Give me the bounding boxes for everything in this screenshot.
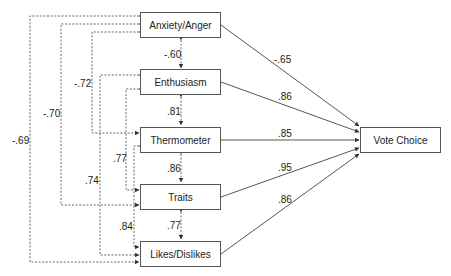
node-traits: Traits <box>140 184 221 210</box>
corr-anxiety-thermometer: -.72 <box>74 79 91 89</box>
node-thermometer: Thermometer <box>140 127 221 153</box>
coef-thermometer-vote: .85 <box>278 129 292 139</box>
corr-traits-likes: .77 <box>167 221 181 231</box>
path-anxiety-vote <box>221 25 359 126</box>
corr-anxiety-enthusiasm: -.60 <box>164 50 181 60</box>
path-enthusiasm-vote <box>221 82 359 132</box>
corr-anxiety-likes: -.69 <box>12 136 29 146</box>
coef-anxiety-vote: -.65 <box>274 55 291 65</box>
coef-likes-vote: .86 <box>278 195 292 205</box>
corr-thermometer-traits: .86 <box>167 164 181 174</box>
coef-enthusiasm-vote: .86 <box>278 92 292 102</box>
corr-enthusiasm-thermometer: .81 <box>167 107 181 117</box>
node-anxiety-anger: Anxiety/Anger <box>140 12 221 38</box>
corr-enthusiasm-likes: .74 <box>85 176 99 186</box>
corr-enthusiasm-traits: .77 <box>113 154 127 164</box>
node-vote-choice: Vote Choice <box>360 127 441 153</box>
node-enthusiasm: Enthusiasm <box>140 69 221 95</box>
node-likes-dislikes: Likes/Dislikes <box>140 241 221 267</box>
coef-traits-vote: .95 <box>278 163 292 173</box>
corr-thermometer-likes: .84 <box>119 222 133 232</box>
corr-anxiety-traits: -.70 <box>43 109 60 119</box>
